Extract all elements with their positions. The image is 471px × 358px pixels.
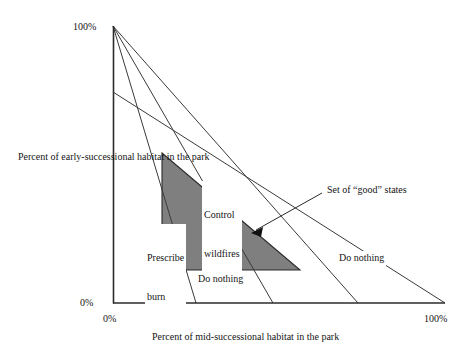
annotation-good-states: Set of “good” states [325,183,409,198]
x-axis-label: Percent of mid-successional habitat in t… [152,331,339,344]
state-space-plot [0,0,471,358]
annotation-prescribe-burn-line2: burn [147,290,184,303]
annotation-do-nothing-outer: Do nothing [337,251,386,266]
annotation-do-nothing-inner: Do nothing [196,272,245,287]
x-axis-tick-0: 0% [103,313,116,326]
y-axis-tick-0: 0% [80,297,93,310]
diagram-canvas: 100% 0% 0% 100% Percent of early-success… [0,0,471,358]
annotation-prescribe-burn-line1: Prescribe [147,251,184,264]
x-axis-tick-100: 100% [424,313,447,326]
y-axis-label: Percent of early-successional habitat in… [18,150,122,163]
annotation-control-wildfires-line1: Control [204,208,240,221]
annotation-control-wildfires-line2: wildfires [204,247,240,260]
y-axis-tick-100: 100% [73,21,96,34]
annotation-prescribe-burn: Prescribe burn [145,224,186,330]
